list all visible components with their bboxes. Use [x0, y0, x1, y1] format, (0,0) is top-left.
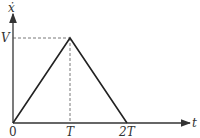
x-axis-label: t	[192, 116, 197, 130]
2t-tick-label: 2T	[118, 125, 136, 138]
velocity-time-diagram: ẋ t V 0 T 2T	[0, 0, 200, 138]
origin-label: 0	[9, 125, 17, 138]
peak-label: V	[1, 31, 11, 45]
y-axis-label: ẋ	[8, 1, 15, 15]
t-tick-label: T	[66, 125, 75, 138]
